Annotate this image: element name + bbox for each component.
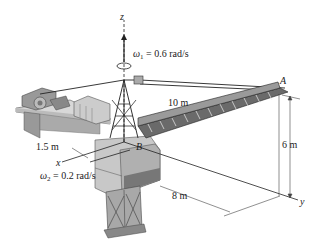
boom-length-label: 10 m [168,97,189,108]
boom [138,82,288,138]
point-a-label: A [279,75,287,86]
offset-label: 1.5 m [36,141,59,152]
distance-label: 8 m [172,190,188,201]
counter-jib [16,88,110,138]
height-label: 6 m [282,139,298,150]
omega1-label: ω1 = 0.6 rad/s [133,48,189,61]
omega2-label: ω2 = 0.2 rad/s [40,170,96,183]
point-b-label: B [136,141,142,152]
cab [95,136,160,196]
base-mast [104,186,146,238]
x-axis-label: x [55,157,61,168]
crane-diagram: z x y A B ω1 = 0.6 rad/s ω2 = 0.2 rad/s … [0,0,322,242]
y-axis-label: y [299,196,305,207]
z-axis-label: z [119,11,124,22]
